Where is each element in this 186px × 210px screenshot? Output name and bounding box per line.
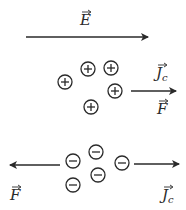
positive-charge-group: JcF: [58, 61, 176, 118]
negative-charge-group: FJc: [9, 145, 179, 205]
force-label: F: [156, 99, 168, 118]
current-density-label: Jc: [159, 185, 174, 205]
negative-charge: [91, 168, 105, 182]
field-label-E: E: [79, 10, 91, 29]
negative-charge: [115, 156, 129, 170]
charge-field-diagram: E JcF FJc: [0, 0, 186, 210]
negative-charge: [66, 154, 80, 168]
positive-charge: [108, 84, 122, 98]
svg-text:Jc: Jc: [159, 186, 174, 205]
positive-charge: [58, 75, 72, 89]
negative-charge: [89, 145, 103, 159]
svg-text:Jc: Jc: [153, 64, 168, 83]
positive-charge: [81, 62, 95, 76]
current-density-label: Jc: [153, 63, 168, 83]
force-label: F: [9, 185, 21, 204]
positive-charge: [104, 61, 118, 75]
diagram-canvas: E JcF FJc: [0, 0, 186, 210]
positive-charge: [84, 100, 98, 114]
field-label: E: [79, 10, 91, 29]
negative-charge: [66, 178, 80, 192]
electric-field-vector: E: [26, 10, 148, 37]
